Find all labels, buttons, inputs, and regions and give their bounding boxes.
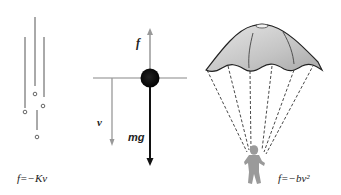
drag-arrowhead-icon	[147, 28, 153, 35]
weight-arrowhead-icon	[147, 158, 154, 166]
parachutist-figure	[244, 145, 265, 184]
raindrop	[23, 110, 27, 114]
free-body-panel	[93, 28, 187, 166]
suspension-lines	[207, 64, 314, 154]
falling-ball	[141, 69, 160, 88]
weight-label: mg	[128, 131, 145, 143]
parachute-panel	[206, 24, 322, 184]
velocity-label: v	[97, 116, 102, 128]
linear-drag-equation: f=−Kv	[17, 172, 47, 184]
velocity-arrowhead-icon	[110, 139, 115, 146]
parachute-canopy	[206, 25, 322, 72]
physics-drag-diagram: f=−Kv f v mg f=−bv²	[0, 0, 341, 195]
raindrop	[35, 135, 39, 139]
raindrop	[41, 104, 45, 108]
diagram-canvas	[0, 0, 341, 195]
quadratic-drag-equation: f=−bv²	[278, 172, 310, 184]
raindrop	[33, 92, 37, 96]
raindrops-panel	[23, 17, 45, 139]
drag-force-label: f	[136, 36, 140, 51]
canopy-vent	[256, 24, 268, 28]
